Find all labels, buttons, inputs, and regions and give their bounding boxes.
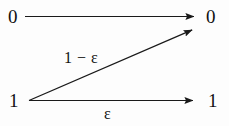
- input-node-0-label: 0: [8, 7, 18, 26]
- channel-diagram: 0 1 0 1 1 − ε ε: [0, 0, 229, 126]
- output-node-1-label: 1: [208, 91, 218, 110]
- channel-edges-svg: [0, 0, 229, 126]
- edge-label-one-minus-epsilon: 1 − ε: [64, 50, 98, 66]
- input-node-1-label: 1: [9, 91, 19, 110]
- edge-input1-to-output0: [29, 30, 192, 101]
- edge-label-epsilon: ε: [104, 106, 111, 122]
- output-node-0-label: 0: [206, 7, 216, 26]
